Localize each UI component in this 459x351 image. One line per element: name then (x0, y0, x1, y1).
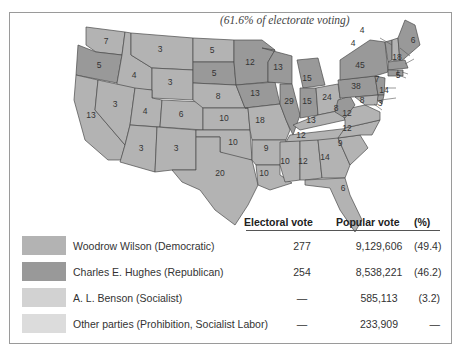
label-vt: 4 (351, 38, 356, 48)
label-ga: 14 (320, 152, 330, 162)
label-ia: 13 (250, 88, 260, 98)
label-sc: 9 (338, 138, 343, 148)
label-mt: 3 (158, 44, 163, 54)
electoral-vote: 277 (284, 240, 320, 252)
label-wa: 7 (104, 36, 109, 46)
label-ny: 45 (355, 60, 365, 70)
label-nd: 5 (210, 45, 215, 55)
label-ca: 13 (86, 110, 96, 120)
label-pa: 38 (351, 81, 361, 91)
header-popular: Popular vote (336, 216, 400, 228)
state-wy (152, 68, 193, 100)
label-ma: 18 (392, 52, 402, 62)
label-va: 12 (342, 108, 352, 118)
label-fl: 6 (341, 183, 346, 193)
label-ne: 8 (216, 91, 221, 101)
label-la: 10 (259, 168, 269, 178)
popular-vote: 233,909 (344, 318, 414, 330)
popular-vote: 9,129,606 (344, 240, 414, 252)
label-in: 15 (302, 96, 312, 106)
state-md (355, 95, 378, 105)
swatch-socialist (22, 288, 66, 307)
label-nc: 12 (342, 123, 352, 133)
label-ct: 7 (375, 74, 380, 84)
vote-percent: (3.2) (414, 292, 440, 304)
table-row-hughes: Charles E. Hughes (Republican) 254 8,538… (22, 262, 442, 282)
candidate-name: Woodrow Wilson (Democratic) (73, 240, 215, 252)
header-pct: (%) (414, 216, 430, 228)
label-mn: 12 (245, 57, 255, 67)
swatch-democratic (22, 236, 66, 255)
label-mo: 18 (255, 115, 265, 125)
vote-percent: — (414, 318, 440, 330)
candidate-name: A. L. Benson (Socialist) (73, 292, 182, 304)
label-ky: 13 (306, 115, 316, 125)
label-md: 8 (360, 95, 365, 105)
candidate-name: Other parties (Prohibition, Socialist La… (73, 318, 268, 330)
label-al: 12 (298, 156, 308, 166)
electoral-vote: — (284, 318, 320, 330)
label-tx: 20 (215, 168, 225, 178)
table-header: Electoral vote Popular vote (%) (22, 214, 442, 230)
table-row-other: Other parties (Prohibition, Socialist La… (22, 314, 442, 334)
vote-percent: (46.2) (414, 266, 440, 278)
table-row-benson: A. L. Benson (Socialist) — 585,113 (3.2) (22, 288, 442, 308)
leader-line-ma (405, 59, 414, 64)
label-nh: 4 (360, 25, 365, 35)
header-rule (246, 230, 440, 231)
label-wi: 13 (273, 62, 283, 72)
label-mi: 15 (302, 73, 312, 83)
label-il: 29 (284, 96, 294, 106)
popular-vote: 585,113 (344, 292, 414, 304)
label-az: 3 (139, 143, 144, 153)
label-sd: 5 (212, 68, 217, 78)
table-row-wilson: Woodrow Wilson (Democratic) 277 9,129,60… (22, 236, 442, 256)
label-nv: 3 (113, 99, 118, 109)
label-tn: 12 (296, 130, 306, 140)
label-ok: 10 (228, 137, 238, 147)
vote-percent: (49.4) (414, 240, 440, 252)
swatch-republican (22, 262, 66, 281)
label-ks: 10 (219, 113, 229, 123)
label-nj: 14 (379, 85, 389, 95)
label-ms: 10 (280, 156, 290, 166)
label-id: 4 (132, 70, 137, 80)
header-electoral: Electoral vote (244, 216, 313, 228)
popular-vote: 8,538,221 (344, 266, 414, 278)
label-de: 3 (378, 98, 383, 108)
electoral-vote: 254 (284, 266, 320, 278)
label-wy: 3 (168, 77, 173, 87)
label-co: 6 (179, 109, 184, 119)
turnout-caption: (61.6% of electorate voting) (220, 14, 350, 26)
label-ut: 4 (143, 106, 148, 116)
label-or: 5 (97, 60, 102, 70)
swatch-other (22, 314, 66, 333)
candidate-name: Charles E. Hughes (Republican) (73, 266, 224, 278)
label-oh: 24 (322, 92, 332, 102)
label-nm: 3 (174, 143, 179, 153)
label-ri: 5 (396, 70, 401, 80)
label-wv: 8 (334, 103, 339, 113)
label-ar: 9 (264, 143, 269, 153)
electoral-vote: — (284, 292, 320, 304)
label-me: 6 (411, 35, 416, 45)
